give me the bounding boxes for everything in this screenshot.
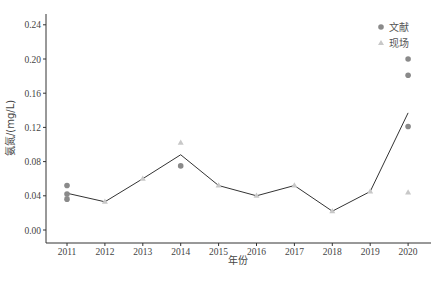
y-tick-label: 0.08 (24, 157, 41, 167)
literature-point-circle (178, 163, 184, 169)
x-axis-title: 年份 (228, 254, 248, 266)
literature-point-circle (405, 72, 411, 78)
x-tick-label: 2017 (285, 247, 304, 257)
y-tick-label: 0.16 (24, 89, 41, 99)
mean-polyline (67, 113, 408, 211)
field-point-triangle (140, 176, 146, 181)
literature-points (64, 56, 411, 202)
y-tick-label: 0.00 (24, 226, 41, 236)
field-point-triangle (291, 182, 297, 187)
y-tick-label: 0.20 (24, 55, 41, 65)
literature-point-circle (64, 183, 70, 189)
x-tick-label: 2014 (171, 247, 190, 257)
field-point-triangle (216, 182, 222, 187)
legend-label-field: 现场 (389, 37, 409, 49)
y-tick-label: 0.04 (24, 191, 41, 201)
x-tick-label: 2020 (399, 247, 418, 257)
y-ticks: 0.000.040.080.120.160.200.24 (24, 20, 46, 235)
y-tick-label: 0.12 (24, 123, 41, 133)
field-point-triangle (178, 140, 184, 145)
literature-point-circle (405, 124, 411, 130)
legend-circle-icon (378, 24, 384, 30)
chart: 0.000.040.080.120.160.200.24 20112012201… (0, 0, 440, 281)
x-tick-label: 2018 (323, 247, 342, 257)
x-tick-label: 2019 (361, 247, 380, 257)
mean-line (67, 113, 408, 211)
literature-point-circle (64, 196, 70, 202)
x-tick-label: 2015 (209, 247, 228, 257)
legend-triangle-icon (378, 40, 384, 45)
y-axis-title: 氨氮/(mg/L) (4, 100, 16, 156)
legend-label-literature: 文献 (389, 21, 409, 33)
y-tick-label: 0.24 (24, 20, 41, 30)
literature-point-circle (405, 56, 411, 62)
field-point-triangle (405, 189, 411, 194)
field-points (64, 140, 411, 214)
literature-point-circle (64, 191, 70, 197)
x-tick-label: 2011 (58, 247, 77, 257)
x-tick-label: 2016 (247, 247, 266, 257)
axes (46, 14, 431, 243)
x-tick-label: 2013 (133, 247, 152, 257)
legend: 文献 现场 (378, 21, 409, 49)
field-point-triangle (367, 188, 373, 193)
x-tick-label: 2012 (95, 247, 114, 257)
